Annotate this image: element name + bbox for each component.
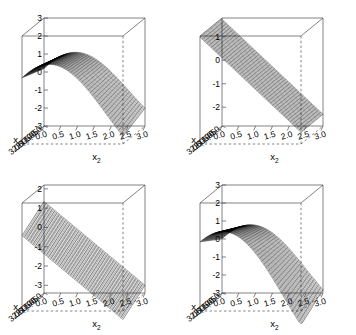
x2-tick-label: 1.0 [68,296,82,309]
z-tick-label: -1 [34,85,42,95]
x2-tick-label: 2.0 [101,129,115,142]
x2-tick-label: 1.0 [246,296,260,309]
z-tick-label: -1 [212,79,220,89]
z-tick-label: 1 [37,203,42,213]
z-tick-label: 2 [37,31,42,41]
x2-axis-label: x2 [92,318,101,331]
z-tick-label: 0 [215,55,220,65]
x2-axis-label: x2 [92,151,101,164]
z-tick-label: 1 [215,32,220,42]
x2-tick-label: 0.5 [229,129,243,142]
plot-panel-top-right: 10-1-20.00.51.01.52.02.53.0x20.00.51.01.… [178,0,356,167]
x1-axis-label-subscript: 1 [196,140,200,147]
z-tick-label: 0 [215,234,220,244]
x2-tick-label: 1.0 [68,129,82,142]
x2-tick-label: 0.5 [229,296,243,309]
plot-panel-top-left: 3210-1-2-30.00.51.01.52.02.53.0x20.00.51… [0,0,178,167]
x2-tick-label: 3.0 [135,296,149,309]
x2-tick-label: 1.5 [263,129,277,142]
x2-tick-label: 1.5 [85,129,99,142]
x1-axis-label-subscript: 1 [18,307,22,314]
z-tick-label: -2 [212,102,220,112]
x2-tick-label: 3.0 [135,129,149,142]
x2-axis-label: x2 [270,318,279,331]
x1-axis-label-subscript: 1 [196,307,200,314]
z-axis: 3210-1-2-3 [34,13,48,131]
x2-tick-label: 1.5 [263,296,277,309]
x2-tick-label: 2.0 [279,129,293,142]
x2-axis: 0.00.51.01.52.02.53.0x2 [212,126,327,164]
x2-tick-label: 1.0 [246,129,260,142]
x2-axis: 0.00.51.01.52.02.53.0x2 [34,293,149,331]
z-tick-label: -2 [34,261,42,271]
z-tick-label: -2 [34,103,42,113]
z-tick-label: 1 [37,49,42,59]
x2-tick-label: 2.5 [118,129,132,142]
x2-axis-label: x2 [270,151,279,164]
z-tick-label: -2 [212,270,220,280]
x2-axis-label-subscript: 2 [275,157,279,164]
z-tick-label: 2 [215,198,220,208]
z-tick-label: 3 [37,13,42,23]
z-tick-label: 1 [215,216,220,226]
z-tick-label: 2 [37,184,42,194]
plot-panel-bottom-right: 3210-1-2-30.00.51.01.52.02.53.0x20.00.51… [178,167,356,334]
x2-axis-label-subscript: 2 [275,324,279,331]
x2-tick-label: 3.0 [313,129,327,142]
x2-tick-label: 3.0 [313,296,327,309]
x2-axis-label-subscript: 2 [97,324,101,331]
x2-axis: 0.00.51.01.52.02.53.0x2 [212,293,327,331]
x2-tick-label: 0.5 [51,296,65,309]
z-tick-label: -1 [212,252,220,262]
x1-axis-label-subscript: 1 [18,140,22,147]
z-tick-label: 3 [215,180,220,190]
z-tick-label: 0 [37,222,42,232]
x2-tick-label: 0.5 [51,129,65,142]
z-tick-label: 0 [37,67,42,77]
panel-grid: 3210-1-2-30.00.51.01.52.02.53.0x20.00.51… [0,0,356,335]
z-axis: 3210-1-2-3 [212,180,226,298]
z-tick-label: -3 [34,280,42,290]
x2-axis-label-subscript: 2 [97,157,101,164]
z-tick-label: -1 [34,242,42,252]
x2-tick-label: 2.0 [279,296,293,309]
x2-axis: 0.00.51.01.52.02.53.0x2 [34,126,149,164]
plot-panel-bottom-left: 210-1-2-30.00.51.01.52.02.53.0x20.00.51.… [0,167,178,334]
x2-tick-label: 2.5 [296,129,310,142]
